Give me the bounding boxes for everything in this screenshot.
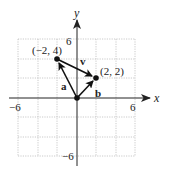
point-origin: [74, 95, 80, 101]
vectors: [57, 59, 93, 98]
vector-label-b: b: [95, 87, 101, 99]
y-axis-label: y: [73, 6, 80, 20]
coordinate-plane: x y −6 6 6 −6 (−2, 4) (2, 2) v a b: [0, 0, 172, 173]
vector-v: [57, 59, 92, 76]
x-axis-label: x: [153, 91, 160, 105]
point-label-neg2-4: (−2, 4): [32, 44, 62, 57]
point-neg2-4: [54, 56, 60, 62]
vector-b: [77, 81, 93, 98]
point-2-2: [93, 75, 99, 81]
x-tick-6: 6: [130, 101, 136, 113]
vector-label-a: a: [61, 80, 67, 92]
x-tick-neg6: −6: [9, 101, 21, 113]
y-tick-neg6: −6: [62, 150, 74, 162]
vector-diagram: x y −6 6 6 −6 (−2, 4) (2, 2) v a b: [0, 0, 172, 173]
axes: [9, 20, 150, 166]
y-tick-6: 6: [66, 35, 72, 47]
vector-label-v: v: [80, 55, 86, 67]
point-label-2-2: (2, 2): [100, 65, 124, 78]
